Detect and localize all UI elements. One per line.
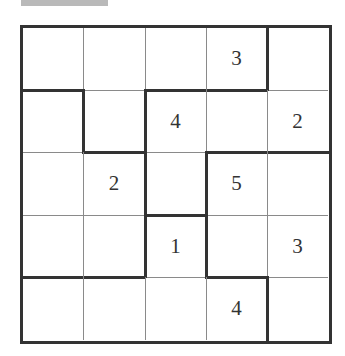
grid-cell-r4-c4[interactable] <box>267 277 328 340</box>
grid-cell-r0-c2[interactable] <box>145 27 206 90</box>
grid-cell-r2-c0[interactable] <box>22 152 83 215</box>
puzzle-grid: 34225134 <box>22 27 328 340</box>
cell-divider-v <box>83 277 84 340</box>
cell-divider-h <box>145 277 206 278</box>
cell-divider-v <box>267 152 268 215</box>
cell-divider-v <box>206 277 207 340</box>
region-border-h <box>144 214 207 217</box>
region-border-v <box>144 214 147 278</box>
grid-cell-r1-c4[interactable]: 2 <box>267 90 328 152</box>
cell-divider-v <box>145 27 146 90</box>
region-border-v <box>205 151 208 216</box>
region-border-h <box>21 276 84 279</box>
grid-cell-r2-c3[interactable]: 5 <box>206 152 267 215</box>
grid-cell-r2-c4[interactable] <box>267 152 328 215</box>
cell-divider-h <box>83 90 145 91</box>
cell-divider-h <box>145 152 206 153</box>
grid-cell-r1-c1[interactable] <box>83 90 145 152</box>
cell-divider-v <box>206 27 207 90</box>
grid-cell-r1-c3[interactable] <box>206 90 267 152</box>
region-border-v <box>82 89 85 153</box>
cell-divider-h <box>22 215 83 216</box>
cell-divider-v <box>206 90 207 152</box>
grid-cell-r3-c2[interactable]: 1 <box>145 215 206 277</box>
region-border-h <box>21 89 84 92</box>
region-border-h <box>205 89 268 92</box>
grid-cell-r1-c2[interactable]: 4 <box>145 90 206 152</box>
grid-cell-r4-c1[interactable] <box>83 277 145 340</box>
grid-cell-r4-c0[interactable] <box>22 277 83 340</box>
clipped-header-strip <box>21 0 108 6</box>
cell-divider-v <box>83 215 84 277</box>
cell-divider-h <box>22 152 83 153</box>
grid-cell-r1-c0[interactable] <box>22 90 83 152</box>
region-border-h <box>205 276 268 279</box>
region-border-h <box>82 151 146 154</box>
region-border-h <box>144 89 207 92</box>
region-border-v <box>144 89 147 153</box>
region-border-h <box>82 276 146 279</box>
grid-cell-r4-c3[interactable]: 4 <box>206 277 267 340</box>
grid-cell-r0-c0[interactable] <box>22 27 83 90</box>
cell-divider-v <box>83 27 84 90</box>
grid-cell-r4-c2[interactable] <box>145 277 206 340</box>
cell-divider-h <box>267 215 328 216</box>
grid-cell-r0-c4[interactable] <box>267 27 328 90</box>
grid-cell-r0-c1[interactable] <box>83 27 145 90</box>
grid-cell-r3-c4[interactable]: 3 <box>267 215 328 277</box>
grid-cell-r2-c1[interactable]: 2 <box>83 152 145 215</box>
region-border-v <box>205 214 208 278</box>
cell-divider-h <box>206 215 267 216</box>
region-border-v <box>266 276 269 341</box>
grid-cell-r3-c0[interactable] <box>22 215 83 277</box>
region-border-h <box>266 151 329 154</box>
cell-divider-h <box>267 277 328 278</box>
grid-cell-r0-c3[interactable]: 3 <box>206 27 267 90</box>
cell-divider-v <box>145 277 146 340</box>
region-border-h <box>205 151 268 154</box>
region-border-v <box>266 26 269 91</box>
cell-divider-v <box>267 90 268 152</box>
cell-divider-h <box>267 90 328 91</box>
grid-cell-r3-c1[interactable] <box>83 215 145 277</box>
region-border-v <box>144 151 147 216</box>
cell-divider-v <box>83 152 84 215</box>
grid-cell-r3-c3[interactable] <box>206 215 267 277</box>
cell-divider-h <box>83 215 145 216</box>
cell-divider-v <box>267 215 268 277</box>
grid-cell-r2-c2[interactable] <box>145 152 206 215</box>
